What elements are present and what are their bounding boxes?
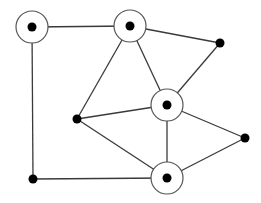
node-layer <box>16 10 250 194</box>
graph-canvas <box>0 0 261 203</box>
graph-diagram <box>0 0 261 203</box>
edge-A-H <box>32 27 33 179</box>
node-dot <box>73 115 82 124</box>
node-H <box>29 175 38 184</box>
node-F <box>73 115 82 124</box>
node-C <box>151 89 183 121</box>
node-dot <box>28 23 37 32</box>
edge-layer <box>32 26 245 179</box>
node-E <box>216 39 225 48</box>
node-dot <box>241 134 250 143</box>
node-dot <box>126 22 135 31</box>
node-dot <box>216 39 225 48</box>
node-D <box>151 162 183 194</box>
edge-H-D <box>33 178 167 179</box>
node-B <box>114 10 146 42</box>
node-dot <box>163 101 172 110</box>
node-A <box>16 11 48 43</box>
node-G <box>241 134 250 143</box>
node-dot <box>163 174 172 183</box>
node-dot <box>29 175 38 184</box>
